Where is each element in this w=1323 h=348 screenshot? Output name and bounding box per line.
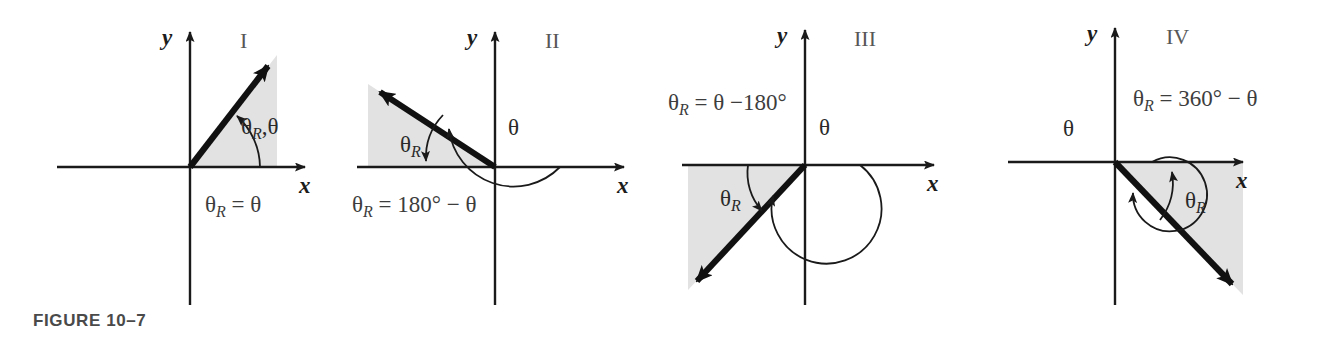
y-axis-label-3: y xyxy=(774,23,788,48)
quadrant-numeral-4: IV xyxy=(1166,24,1189,49)
reference-angle-diagram: x y I θR,θ θR = θ x y II θ θR θR = 180° … xyxy=(0,0,1323,348)
formula-2: θR = 180° − θ xyxy=(352,192,476,220)
panel-quadrant-2: x y II θ θR θR = 180° − θ xyxy=(352,25,629,305)
formula-1: θR = θ xyxy=(205,192,261,220)
y-axis-label-4: y xyxy=(1084,21,1098,46)
formula-3: θR = θ −180° xyxy=(668,90,787,118)
theta-annotation-3: θ xyxy=(819,115,830,140)
theta-annotation-2: θ xyxy=(508,115,519,140)
panel-quadrant-1: x y I θR,θ θR = θ xyxy=(57,25,311,305)
quadrant-numeral-3: III xyxy=(854,26,876,51)
x-axis-label-1: x xyxy=(298,173,311,198)
x-axis-label-2: x xyxy=(616,173,629,198)
quadrant-numeral-1: I xyxy=(240,28,247,53)
x-axis-label-4: x xyxy=(1235,168,1248,193)
y-axis-label-1: y xyxy=(159,25,173,50)
theta-annotation-4: θ xyxy=(1063,116,1074,141)
figure-container: x y I θR,θ θR = θ x y II θ θR θR = 180° … xyxy=(0,0,1323,348)
figure-caption: FIGURE 10–7 xyxy=(33,311,146,331)
y-axis-label-2: y xyxy=(464,25,478,50)
panel-quadrant-3: x y III θ θR θR = θ −180° xyxy=(668,23,939,305)
x-axis-label-3: x xyxy=(926,171,939,196)
formula-4: θR = 360° − θ xyxy=(1133,86,1257,114)
panel-quadrant-4: x y IV θ θR θR = 360° − θ xyxy=(1008,21,1257,305)
quadrant-numeral-2: II xyxy=(545,28,560,53)
